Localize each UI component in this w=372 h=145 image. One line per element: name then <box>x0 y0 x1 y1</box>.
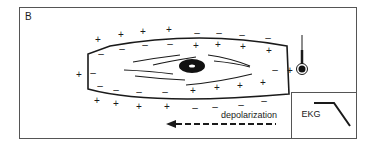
svg-text:+: + <box>215 39 221 50</box>
svg-text:+: + <box>164 101 170 112</box>
panel-label: B <box>25 11 32 22</box>
svg-text:–: – <box>238 99 244 110</box>
svg-text:–: – <box>90 67 96 78</box>
depolarization-label: depolarization <box>221 110 277 120</box>
svg-text:+: + <box>287 65 293 76</box>
svg-text:–: – <box>113 84 119 95</box>
svg-text:+: + <box>166 24 172 35</box>
svg-text:–: – <box>239 29 245 40</box>
svg-text:+: + <box>136 101 142 112</box>
svg-text:–: – <box>136 86 142 97</box>
svg-text:–: – <box>212 101 218 112</box>
svg-text:–: – <box>167 38 173 49</box>
svg-text:+: + <box>140 26 146 37</box>
svg-text:+: + <box>237 80 243 91</box>
svg-text:+: + <box>266 45 272 56</box>
svg-text:+: + <box>193 40 199 51</box>
svg-text:+: + <box>113 98 119 109</box>
svg-text:+: + <box>118 29 124 40</box>
svg-text:–: – <box>119 43 125 54</box>
svg-text:+: + <box>94 95 100 106</box>
svg-text:+: + <box>95 34 101 45</box>
depolarization-diagram: B + + + + – – – – + + + + – – – – + <box>0 0 372 145</box>
recording-electrode <box>297 35 308 75</box>
svg-text:–: – <box>194 27 200 38</box>
svg-text:–: – <box>261 95 267 106</box>
svg-text:–: – <box>272 64 278 75</box>
svg-text:–: – <box>162 86 168 97</box>
svg-text:–: – <box>98 48 104 59</box>
ekg-label: EKG <box>301 109 320 119</box>
svg-text:+: + <box>190 85 196 96</box>
depolarization-arrow <box>166 120 276 128</box>
svg-text:+: + <box>214 82 220 93</box>
svg-text:–: – <box>97 80 103 91</box>
svg-text:–: – <box>216 27 222 38</box>
svg-text:–: – <box>142 39 148 50</box>
svg-text:–: – <box>192 102 198 113</box>
svg-text:+: + <box>76 69 82 80</box>
svg-text:–: – <box>265 32 271 43</box>
svg-text:+: + <box>240 41 246 52</box>
svg-text:+: + <box>260 77 266 88</box>
